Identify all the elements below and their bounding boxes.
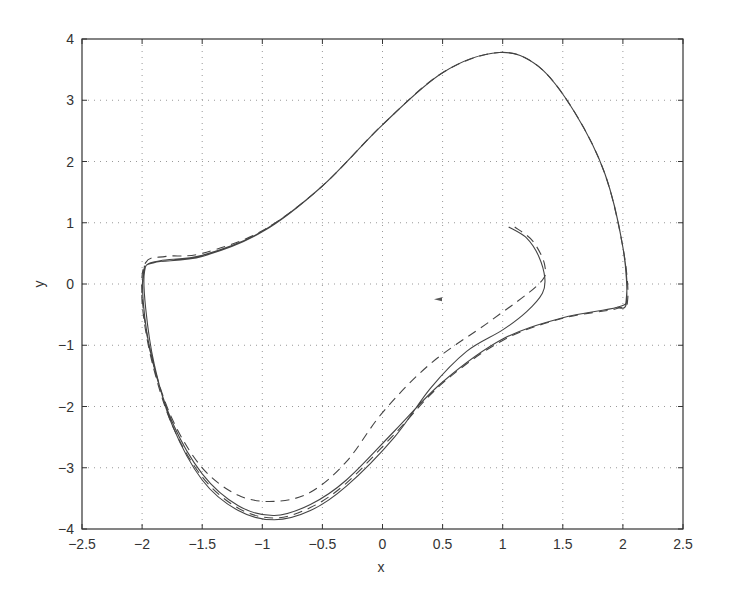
y-tick-label: −1 (58, 337, 74, 353)
y-tick-label: 3 (66, 92, 74, 108)
y-tick-label: −4 (58, 521, 74, 537)
y-tick-label: 0 (66, 276, 74, 292)
x-tick-label: 1 (499, 536, 507, 552)
arrow-marker-icon (434, 297, 442, 301)
grid-lines (82, 39, 683, 529)
y-tick-label: −3 (58, 460, 74, 476)
x-tick-label: 0 (379, 536, 387, 552)
x-tick-label: 2.5 (673, 536, 693, 552)
x-tick-label: −2 (134, 536, 150, 552)
x-tick-label: −1 (254, 536, 270, 552)
arrow-marker-icon (434, 297, 442, 301)
x-tick-label: 2 (619, 536, 627, 552)
y-tick-label: 2 (66, 154, 74, 170)
x-tick-labels: −2.5−2−1.5−1−0.500.511.522.5 (68, 536, 693, 552)
x-axis-label: x (378, 559, 385, 575)
x-tick-label: 1.5 (553, 536, 573, 552)
y-tick-label: 4 (66, 31, 74, 47)
x-tick-label: 0.5 (433, 536, 453, 552)
x-tick-label: −1.5 (188, 536, 216, 552)
y-tick-label: 1 (66, 215, 74, 231)
x-tick-label: −0.5 (309, 536, 337, 552)
trajectory-curves (142, 52, 628, 519)
y-tick-label: −2 (58, 399, 74, 415)
x-tick-label: −2.5 (68, 536, 96, 552)
y-axis-label: y (31, 281, 47, 288)
y-tick-labels: 43210−1−2−3−4 (58, 31, 74, 537)
phase-portrait-chart: −2.5−2−1.5−1−0.500.511.522.5 43210−1−2−3… (0, 0, 731, 605)
